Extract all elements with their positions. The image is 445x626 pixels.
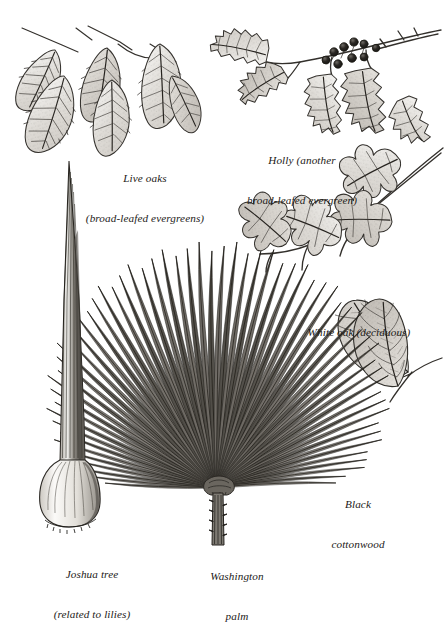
- caption-joshua-line2: (related to lilies): [22, 608, 162, 621]
- caption-washington-palm: Washington palm: [176, 544, 298, 626]
- berry: [322, 56, 330, 64]
- caption-holly-line1: Holly (another: [232, 154, 372, 167]
- caption-black-cottonwood: Black cottonwood: [315, 472, 401, 565]
- caption-joshua-tree: Joshua tree (related to lilies): [22, 542, 162, 626]
- caption-white-oak: White oak (deciduous): [288, 300, 430, 353]
- berry: [372, 44, 379, 51]
- caption-palm-line1: Washington: [176, 570, 298, 583]
- caption-white-oak-line1: White oak (deciduous): [288, 326, 430, 339]
- caption-live-oaks-line1: Live oaks: [60, 172, 230, 185]
- berry: [334, 60, 342, 68]
- caption-live-oaks: Live oaks (broad-leafed evergreens): [60, 146, 230, 239]
- palm-hub: [204, 476, 235, 495]
- caption-joshua-line1: Joshua tree: [22, 568, 162, 581]
- caption-cottonwood-line2: cottonwood: [315, 538, 401, 551]
- berry: [340, 43, 349, 52]
- berry: [360, 53, 368, 61]
- berry: [350, 38, 358, 46]
- berry: [360, 40, 368, 48]
- berry: [348, 54, 357, 63]
- caption-palm-line2: palm: [176, 610, 298, 623]
- caption-cottonwood-line1: Black: [315, 498, 401, 511]
- caption-holly-line2: broad-leafed evergreen): [232, 194, 372, 207]
- caption-holly: Holly (another broad-leafed evergreen): [232, 128, 372, 221]
- caption-live-oaks-line2: (broad-leafed evergreens): [60, 212, 230, 225]
- berry: [330, 48, 338, 56]
